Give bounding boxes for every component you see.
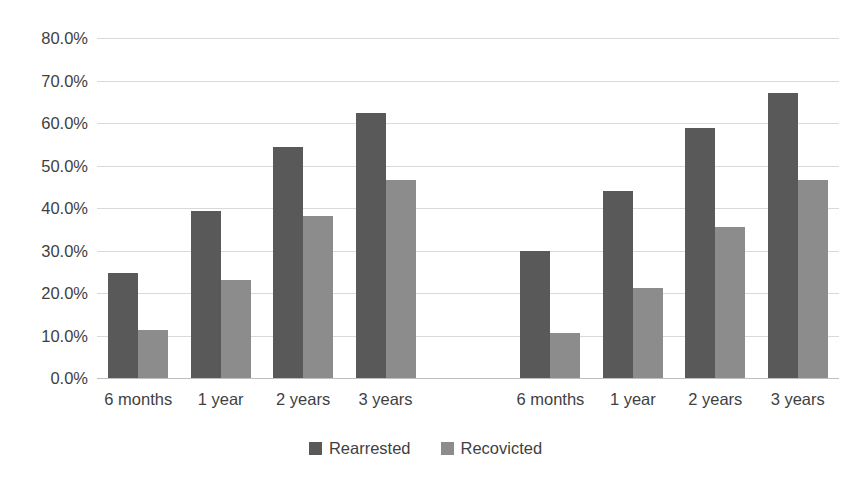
y-axis-tick-label: 70.0%	[0, 72, 88, 89]
bar-recovicted	[221, 280, 251, 378]
legend-label: Rearrested	[329, 440, 411, 457]
x-axis-tick-label: 6 months	[97, 386, 179, 412]
bar-group	[97, 38, 179, 378]
bar-recovicted	[550, 333, 580, 378]
bar-group	[509, 38, 591, 378]
bar-rearrested	[191, 211, 221, 378]
bar-rearrested	[356, 113, 386, 378]
bar-group	[674, 38, 756, 378]
y-axis: 0.0%10.0%20.0%30.0%40.0%50.0%60.0%70.0%8…	[0, 38, 88, 378]
x-axis-tick-label: 1 year	[592, 386, 674, 412]
bar-group	[262, 38, 344, 378]
y-axis-tick-label: 10.0%	[0, 327, 88, 344]
bar-rearrested	[768, 93, 798, 378]
y-axis-tick-label: 60.0%	[0, 115, 88, 132]
gridline	[97, 378, 839, 379]
bar-recovicted	[386, 180, 416, 378]
bar-recovicted	[303, 216, 333, 378]
chart-legend: RearrestedRecovicted	[0, 440, 851, 457]
y-axis-tick-label: 40.0%	[0, 200, 88, 217]
bar-rearrested	[108, 273, 138, 378]
bar-rearrested	[520, 251, 550, 378]
bar-rearrested	[273, 147, 303, 378]
legend-swatch-recovicted	[441, 442, 454, 455]
bar-group	[592, 38, 674, 378]
y-axis-tick-label: 0.0%	[0, 370, 88, 387]
x-axis-tick-label: 3 years	[757, 386, 839, 412]
x-axis-tick-label: 3 years	[344, 386, 426, 412]
x-axis-tick-label: 1 year	[179, 386, 261, 412]
bars-layer	[97, 38, 839, 378]
x-axis: 6 months1 year2 years3 years6 months1 ye…	[97, 386, 839, 412]
x-axis-tick-label: 6 months	[509, 386, 591, 412]
bar-rearrested	[685, 128, 715, 378]
bar-group	[179, 38, 261, 378]
plot-area	[97, 38, 839, 378]
y-axis-tick-label: 50.0%	[0, 157, 88, 174]
y-axis-tick-label: 30.0%	[0, 242, 88, 259]
y-axis-tick-label: 20.0%	[0, 285, 88, 302]
bar-group-spacer	[427, 38, 509, 378]
x-axis-tick-label: 2 years	[674, 386, 756, 412]
bar-rearrested	[603, 191, 633, 378]
bar-recovicted	[138, 330, 168, 378]
legend-item[interactable]: Rearrested	[309, 440, 411, 457]
legend-swatch-rearrested	[309, 442, 322, 455]
x-axis-tick-label-empty	[427, 386, 509, 412]
bar-recovicted	[633, 288, 663, 378]
bar-recovicted	[798, 180, 828, 378]
x-axis-tick-label: 2 years	[262, 386, 344, 412]
legend-label: Recovicted	[461, 440, 543, 457]
bar-recovicted	[715, 227, 745, 378]
bar-chart: 0.0%10.0%20.0%30.0%40.0%50.0%60.0%70.0%8…	[0, 0, 851, 491]
bar-group	[344, 38, 426, 378]
legend-item[interactable]: Recovicted	[441, 440, 543, 457]
y-axis-tick-label: 80.0%	[0, 30, 88, 47]
bar-group	[757, 38, 839, 378]
